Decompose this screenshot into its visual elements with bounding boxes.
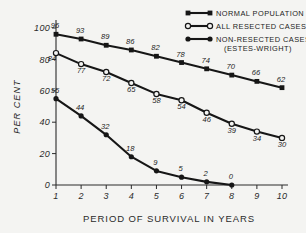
x-tick-label: 2 [77, 191, 83, 201]
y-tick-label: 60 [39, 86, 50, 96]
y-tick-label: 20 [38, 149, 50, 159]
series-1-point-label: 78 [176, 50, 185, 59]
legend-marker-1-end [208, 11, 213, 16]
series-1-marker [54, 32, 59, 37]
series-1-marker [204, 66, 209, 71]
series-3-point-label: 32 [101, 122, 110, 131]
y-tick-label: 0 [45, 180, 50, 190]
series-1-marker [179, 60, 184, 65]
series-2-point-label: 54 [177, 102, 185, 111]
series-3-marker [154, 168, 159, 173]
legend-sublabel-3: (ESTES-WRIGHT) [224, 44, 292, 53]
series-1-point-label: 62 [277, 75, 286, 84]
x-tick-label: 5 [154, 191, 160, 201]
legend-marker-2-end [207, 23, 212, 28]
series-2-point-label: 84 [48, 54, 56, 63]
series-1-marker [154, 54, 159, 59]
series-2-point-label: 39 [228, 126, 237, 135]
series-1-marker [254, 79, 259, 84]
legend-marker-3-end [207, 36, 212, 41]
legend-label-2: ALL RESECTED CASES [216, 22, 306, 31]
series-1-marker [280, 85, 285, 90]
series-line-2 [56, 53, 282, 138]
legend-label-1: NORMAL POPULATION [216, 9, 304, 18]
series-1-point-label: 70 [227, 62, 236, 71]
x-tick-label: 10 [277, 191, 288, 201]
series-3-point-label: 5 [178, 164, 183, 173]
series-1-point-label: 89 [101, 32, 110, 41]
series-1-point-label: 82 [151, 43, 160, 52]
series-3-marker [179, 175, 184, 180]
x-axis-title: PERIOD OF SURVIVAL IN YEARS [83, 213, 255, 224]
series-1-point-label: 66 [252, 68, 261, 77]
x-tick-label: 4 [129, 191, 134, 201]
y-tick-label: 40 [39, 117, 50, 127]
y-axis-title: PER CENT [12, 79, 22, 134]
x-tick-label: 7 [204, 191, 210, 201]
series-1-point-label: 96 [51, 21, 60, 30]
x-tick-label: 6 [179, 191, 184, 201]
series-1-point-label: 86 [126, 37, 135, 46]
series-3-marker [79, 113, 84, 118]
series-2-point-label: 30 [278, 140, 287, 149]
series-3-marker [53, 96, 58, 101]
chart-figure: 020406080100PER CENT12345678910PERIOD OF… [0, 0, 306, 233]
x-tick-label: 8 [229, 191, 234, 201]
series-2-point-label: 77 [77, 66, 86, 75]
series-3-point-label: 9 [153, 158, 158, 167]
series-1-point-label: 74 [201, 56, 209, 65]
series-1-marker [229, 73, 234, 78]
x-tick-label: 1 [53, 191, 58, 201]
legend-label-3: NON-RESECTED CASES [216, 35, 306, 44]
series-1-marker [79, 37, 84, 42]
series-1-point-label: 93 [76, 26, 85, 35]
series-1-marker [129, 48, 134, 53]
legend-marker-3-start [185, 36, 190, 41]
series-3-point-label: 2 [203, 169, 209, 178]
series-3-point-label: 18 [126, 144, 135, 153]
legend-marker-1-start [186, 11, 191, 16]
series-3-point-label: 0 [229, 172, 234, 181]
series-2-point-label: 34 [253, 134, 261, 143]
series-2-point-label: 46 [202, 115, 211, 124]
legend-marker-2-start [185, 23, 190, 28]
x-tick-label: 3 [104, 191, 109, 201]
series-3-marker [229, 182, 234, 187]
x-tick-label: 9 [254, 191, 259, 201]
series-2-point-label: 72 [102, 74, 111, 83]
series-2-point-label: 65 [127, 85, 136, 94]
series-3-marker [129, 154, 134, 159]
survival-line-chart: 020406080100PER CENT12345678910PERIOD OF… [0, 0, 306, 233]
series-3-marker [104, 132, 109, 137]
series-3-point-label: 44 [76, 103, 84, 112]
series-3-point-label: 55 [51, 86, 60, 95]
series-1-marker [104, 43, 109, 48]
series-3-marker [204, 179, 209, 184]
series-2-point-label: 58 [152, 96, 161, 105]
y-tick-label: 100 [34, 23, 50, 33]
